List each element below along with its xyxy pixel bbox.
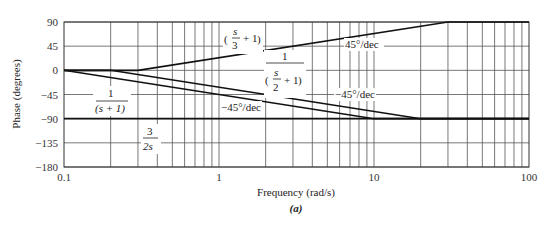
svg-text:−135: −135 (35, 137, 58, 149)
y-tick-labels: 90450−45−90−135−180 (35, 16, 58, 173)
svg-text:0: 0 (53, 64, 59, 76)
svg-text:−45°/dec: −45°/dec (335, 88, 375, 100)
x-tick-labels: 0.1110100 (57, 171, 538, 183)
svg-text:2s: 2s (143, 140, 153, 152)
svg-text:2: 2 (273, 81, 279, 93)
svg-text:90: 90 (47, 16, 59, 28)
svg-text:(: ( (265, 74, 269, 87)
svg-text:): ) (298, 74, 302, 87)
bode-phase-chart: 90450−45−90−135−180 0.1110100 ( s 3 + 1 … (0, 0, 554, 235)
svg-text:+ 1: + 1 (284, 74, 298, 86)
label-s3: ( s 3 + 1 ) (223, 24, 263, 54)
svg-text:1: 1 (108, 87, 114, 99)
svg-text:s: s (274, 66, 278, 78)
svg-text:+ 1: + 1 (243, 32, 257, 44)
svg-text:45: 45 (47, 40, 59, 52)
svg-text:0.1: 0.1 (57, 171, 71, 183)
label-s0: 3 2s (141, 124, 161, 154)
svg-text:): ) (257, 33, 261, 46)
svg-text:−90: −90 (41, 113, 59, 125)
annotation-45-up: 45°/dec (344, 38, 384, 51)
svg-text:(s + 1): (s + 1) (95, 102, 125, 115)
label-s1: 1 (s + 1) (93, 86, 131, 116)
annotation-45-down-s1: −45°/dec (220, 101, 262, 114)
y-axis-label: Phase (degrees) (10, 59, 23, 129)
annotation-45-down-s2: −45°/dec (334, 88, 376, 101)
svg-text:(: ( (224, 33, 228, 46)
svg-text:−45: −45 (41, 89, 59, 101)
figure-caption: (a) (290, 202, 303, 215)
svg-text:s: s (233, 25, 237, 37)
svg-text:100: 100 (521, 171, 538, 183)
svg-text:3: 3 (147, 125, 153, 137)
x-axis-label: Frequency (rad/s) (257, 186, 335, 199)
svg-text:−180: −180 (35, 161, 58, 173)
svg-text:3: 3 (232, 39, 238, 51)
label-s2: 1 ( s 2 + 1 ) (264, 50, 306, 98)
svg-text:−45°/dec: −45°/dec (221, 101, 261, 113)
svg-text:1: 1 (282, 50, 288, 62)
svg-text:1: 1 (216, 171, 222, 183)
svg-text:45°/dec: 45°/dec (345, 38, 379, 50)
svg-text:10: 10 (369, 171, 381, 183)
